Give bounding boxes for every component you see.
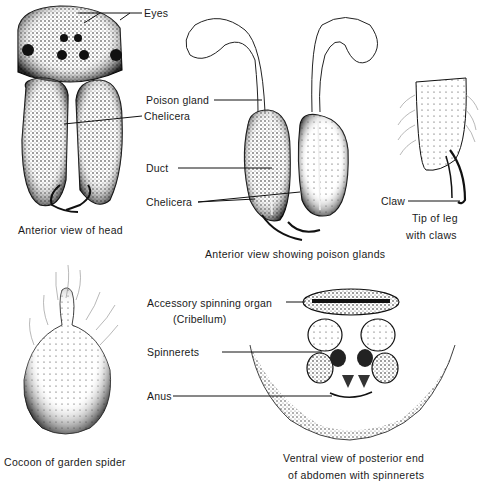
caption-poison-glands: Anterior view showing poison glands <box>205 248 385 261</box>
label-anus: Anus <box>147 390 172 402</box>
spinnerets-illustration <box>250 289 455 440</box>
cocoon-illustration <box>24 265 118 434</box>
label-chelicera-head: Chelicera <box>144 110 190 122</box>
label-chelicera-glands: Chelicera <box>146 196 192 208</box>
label-duct: Duct <box>146 162 168 174</box>
poison-gland-illustration <box>186 18 378 241</box>
caption-cocoon: Cocoon of garden spider <box>4 456 126 469</box>
caption-head: Anterior view of head <box>18 224 123 237</box>
label-spinnerets: Spinnerets <box>147 346 199 358</box>
caption-leg-tip-2: with claws <box>406 229 457 242</box>
head-illustration <box>18 6 122 212</box>
caption-spinnerets-1: Ventral view of posterior end <box>283 452 424 465</box>
label-accessory-spinning-organ: Accessory spinning organ <box>147 297 272 309</box>
label-cribellum: (Cribellum) <box>173 313 227 325</box>
diagram-artwork <box>0 0 485 487</box>
label-eyes: Eyes <box>144 7 168 19</box>
caption-spinnerets-2: of abdomen with spinnerets <box>288 469 424 482</box>
caption-leg-tip-1: Tip of leg <box>412 212 458 225</box>
label-claw: Claw <box>381 195 405 207</box>
label-poison-gland: Poison gland <box>146 94 209 106</box>
leg-tip-illustration <box>398 78 478 203</box>
